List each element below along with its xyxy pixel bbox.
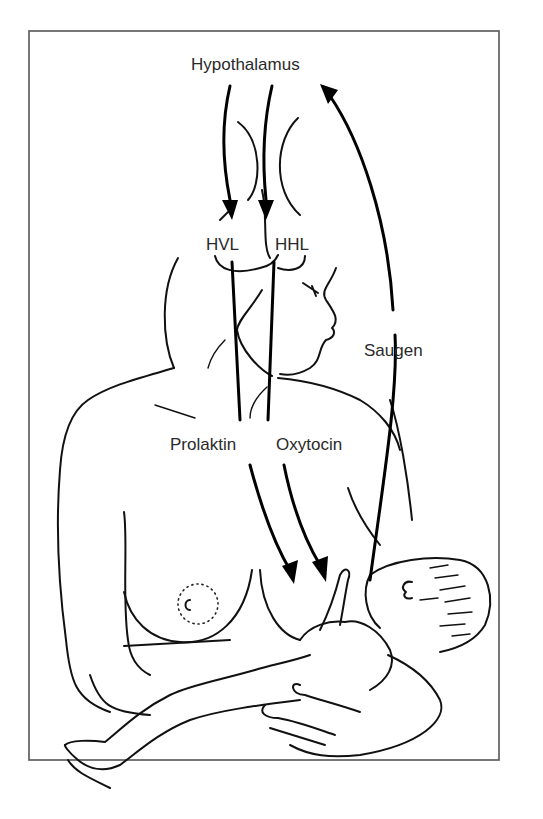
arrow-hypothalamus-to-hvl — [222, 86, 238, 220]
label-hypothalamus: Hypothalamus — [191, 56, 300, 73]
arrow-hhl-oxytocin — [268, 262, 328, 582]
arrow-hvl-prolaktin — [232, 262, 298, 584]
diagram-canvas — [0, 0, 543, 819]
lactation-reflex-diagram: Hypothalamus HVL HHL Saugen Prolaktin Ox… — [0, 0, 543, 819]
label-hvl: HVL — [206, 236, 239, 253]
label-oxytocin: Oxytocin — [276, 436, 342, 453]
arrow-hypothalamus-to-hhl — [258, 86, 274, 220]
label-prolaktin: Prolaktin — [170, 436, 236, 453]
label-saugen: Saugen — [364, 342, 423, 359]
label-hhl: HHL — [275, 236, 309, 253]
arrow-saugen-to-hypothalamus — [320, 84, 395, 580]
infant-figure — [65, 558, 490, 788]
